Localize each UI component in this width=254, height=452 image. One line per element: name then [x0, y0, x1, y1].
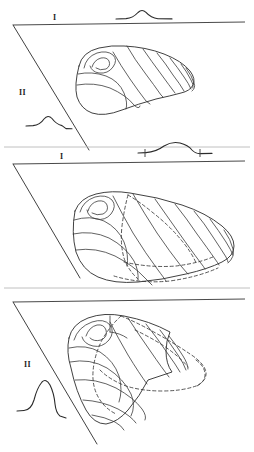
shell-3-outline [68, 314, 172, 424]
panel-3-numeral-II: II [24, 360, 31, 369]
shell-1-growth-line [77, 84, 140, 108]
panel-1-reference-line [13, 22, 245, 25]
shell-2-outline [73, 192, 234, 283]
shell-3-hidden-outline [100, 316, 206, 391]
shell-2-growth-line [155, 199, 205, 269]
panel-3-reference-line [13, 299, 245, 302]
shell-1-growth-line [113, 52, 150, 104]
shell-growth-figure: I II I II [0, 0, 254, 452]
panel-3-oblique-line [13, 302, 97, 444]
panel-2-top-profile-curve-group [138, 142, 212, 157]
panel-1-left-profile-curve [26, 116, 72, 128]
shell-1-outline [76, 46, 194, 115]
bivalve-shell-stage-2 [73, 192, 234, 285]
panel-1 [13, 11, 245, 150]
shell-3-growth-line [69, 347, 121, 402]
panel-2-oblique-line [13, 164, 80, 278]
shell-3-hidden-outline [93, 316, 121, 414]
shell-2-growth-line [175, 204, 219, 265]
panel-3-left-profile-curve [17, 381, 66, 418]
shell-1-growth-line [78, 73, 127, 109]
shell-2-growth-line [76, 249, 152, 285]
shell-3-growth-line [160, 330, 186, 370]
bivalve-shell-stage-1 [76, 46, 195, 115]
shell-2-umbo-hook [80, 196, 114, 219]
shell-3-hidden-margin [196, 360, 205, 386]
panel-2 [13, 142, 245, 285]
panel-2-reference-line [13, 161, 245, 164]
shell-3-umbo-inner [86, 325, 106, 341]
shell-2-hidden-outline [128, 195, 196, 263]
shell-3-growth-line [70, 361, 134, 416]
panel-2-top-profile-curve [138, 142, 212, 153]
panel-3 [13, 299, 245, 444]
panel-1-numeral-I: I [53, 13, 56, 22]
bivalve-shell-stage-3 [68, 314, 206, 430]
shell-3-growth-line [92, 415, 124, 430]
shell-3-growth-line [146, 324, 180, 372]
shell-2-growth-line [73, 233, 138, 280]
shell-2-hidden-growth-line [124, 256, 215, 267]
figure-root: I II I II [0, 0, 254, 452]
shell-2-umbo-inner [88, 201, 108, 215]
panel-1-numeral-II: II [19, 88, 26, 97]
panel-1-top-profile-curve [116, 11, 172, 19]
panel-2-numeral-I: I [60, 152, 63, 161]
shell-1-umbo-inner [92, 58, 110, 70]
shell-3-hidden-growth-line [135, 330, 188, 367]
